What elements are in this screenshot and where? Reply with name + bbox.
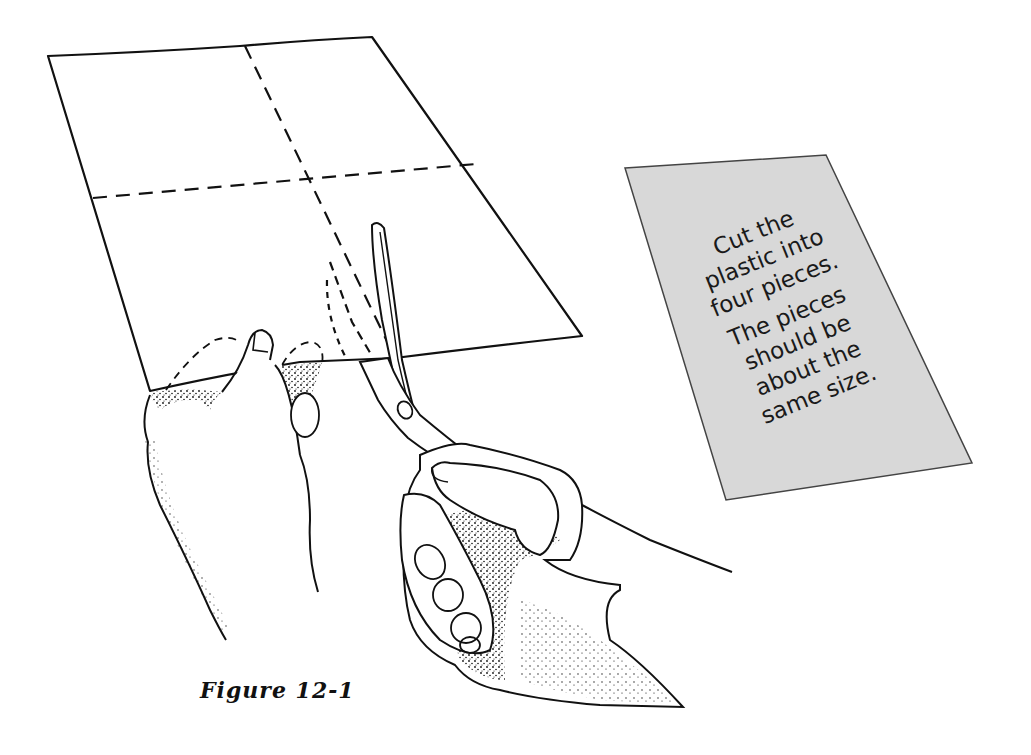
right-hand (400, 444, 732, 707)
figure-caption: Figure 12-1 (200, 677, 355, 703)
plastic-sheet (48, 37, 582, 391)
